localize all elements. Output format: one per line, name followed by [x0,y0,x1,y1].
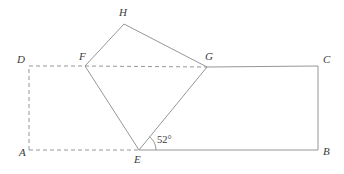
angle-arc-GEB [150,137,157,150]
vertex-label-H: H [118,6,128,18]
square-EFHG [85,24,207,150]
vertex-label-B: B [323,145,330,157]
segment-F-H [85,24,124,66]
vertex-label-A: A [18,146,26,158]
geometry-canvas: 52° A B C D E F G H [0,0,344,174]
segment-G-C [207,66,318,67]
segment-H-G [124,24,207,67]
vertex-label-C: C [323,53,331,65]
geometry-figure: 52° A B C D E F G H [0,0,344,174]
segment-E-G [139,67,207,150]
vertex-label-D: D [16,53,25,65]
vertex-label-F: F [78,50,86,62]
vertex-label-G: G [205,50,213,62]
segment-F-E [85,66,139,150]
angle-label-52-degrees: 52° [157,134,172,145]
segment-F-G [85,66,207,67]
vertex-label-E: E [133,153,141,165]
